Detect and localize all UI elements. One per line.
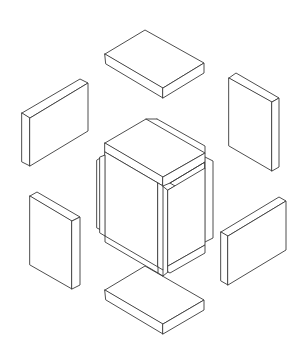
slab-lower-right <box>221 197 286 285</box>
slab-upper-right <box>229 73 279 171</box>
diagram-canvas: Isometric exploded view: central cross-s… <box>0 0 306 356</box>
slab-lower-left <box>30 192 80 289</box>
slab-bottom <box>105 266 204 334</box>
center-assembly <box>97 119 213 276</box>
slab-upper-left <box>22 79 88 166</box>
slab-top <box>105 30 204 98</box>
